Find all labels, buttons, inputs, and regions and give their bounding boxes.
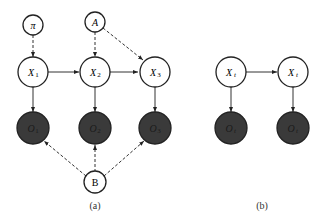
node-ot-2: O t (277, 112, 309, 144)
svg-text:X: X (27, 67, 35, 78)
svg-text:O: O (225, 123, 232, 134)
node-ot-1: O t (215, 112, 247, 144)
svg-text:X: X (225, 67, 233, 78)
node-b: B (84, 171, 106, 193)
svg-text:O: O (89, 123, 96, 134)
node-o1: O 1 (17, 112, 49, 144)
svg-text:X: X (287, 67, 295, 78)
svg-text:2: 2 (97, 127, 101, 135)
svg-text:B: B (92, 177, 99, 188)
node-o2: O 2 (79, 112, 111, 144)
edge-a-x3 (103, 28, 143, 60)
node-pi: π (23, 15, 43, 35)
node-xt-2: X t (278, 57, 308, 87)
node-o3: O 3 (139, 112, 171, 144)
svg-text:3: 3 (157, 127, 161, 135)
edges-a (33, 28, 155, 176)
caption-a: (a) (89, 200, 100, 212)
caption-b: (b) (256, 200, 268, 212)
edge-b-o3 (104, 141, 144, 176)
node-xt-1: X t (216, 57, 246, 87)
node-x3: X 3 (140, 57, 170, 87)
node-x2: X 2 (80, 57, 110, 87)
svg-text:1: 1 (35, 71, 39, 79)
svg-text:2: 2 (97, 71, 101, 79)
node-a: A (85, 12, 105, 32)
svg-text:X: X (149, 67, 157, 78)
edge-b-o1 (44, 141, 86, 176)
svg-text:O: O (287, 123, 294, 134)
hmm-diagram: π A X 1 X 2 X 3 O 1 O 2 O 3 B (a) (0, 0, 321, 220)
svg-text:O: O (27, 123, 34, 134)
svg-text:A: A (91, 17, 99, 28)
node-x1: X 1 (18, 57, 48, 87)
svg-text:X: X (89, 67, 97, 78)
svg-text:O: O (149, 123, 156, 134)
svg-text:3: 3 (157, 71, 161, 79)
svg-text:1: 1 (35, 127, 39, 135)
